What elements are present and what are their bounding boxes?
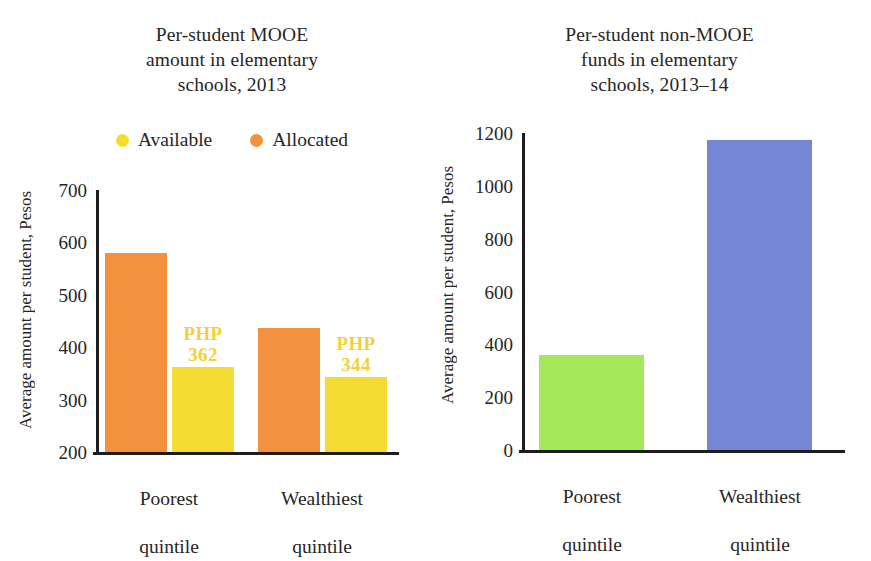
legend-swatch-available-icon xyxy=(116,134,129,147)
legend-item-available[interactable]: Available xyxy=(116,129,212,151)
x-axis-line-left xyxy=(93,452,399,455)
bar-allocated-poorest[interactable] xyxy=(105,253,167,452)
y-axis-line-right xyxy=(522,133,525,450)
y-axis-line-left xyxy=(96,190,99,452)
y-tick-left-200: 200 xyxy=(59,443,88,462)
chart-title-left-line-1: Per-student MOOE xyxy=(24,22,440,47)
legend-swatch-allocated-icon xyxy=(250,134,263,147)
legend-item-allocated[interactable]: Allocated xyxy=(250,129,348,151)
y-axis-title-right: Average amount per student, Pesos xyxy=(438,112,458,457)
y-tick-left-700: 700 xyxy=(59,181,88,200)
bar-value-available-wealthiest-line-2: 344 xyxy=(337,354,376,375)
bar-available-poorest[interactable]: PHP 362 xyxy=(172,367,234,452)
x-tick-label-left-poorest: Poorest quintile xyxy=(139,463,199,561)
chart-title-right-line-1: Per-student non-MOOE xyxy=(448,22,871,47)
chart-title-right: Per-student non-MOOE funds in elementary… xyxy=(430,22,871,97)
bar-nonmooe-wealthiest[interactable] xyxy=(707,140,812,450)
x-tick-label-right-wealthiest: Wealthiest quintile xyxy=(719,461,801,561)
y-tick-right-400: 400 xyxy=(485,335,514,354)
bar-value-available-poorest: PHP 362 xyxy=(184,323,223,365)
chart-title-left-line-2: amount in elementary xyxy=(24,47,440,72)
bar-allocated-wealthiest[interactable] xyxy=(258,328,320,452)
chart-title-left-line-3: schools, 2013 xyxy=(24,72,440,97)
plot-area-left: 700 600 500 400 300 200 PHP 362 PHP 344 xyxy=(96,190,396,452)
y-tick-right-200: 200 xyxy=(485,388,514,407)
legend-label-allocated: Allocated xyxy=(272,129,348,151)
y-tick-left-400: 400 xyxy=(59,338,88,357)
chart-legend-left: Available Allocated xyxy=(0,129,440,151)
y-tick-right-1000: 1000 xyxy=(475,176,513,195)
plot-area-right: 1200 1000 800 600 400 200 0 Poorest quin… xyxy=(522,133,842,450)
bar-value-available-wealthiest-line-1: PHP xyxy=(337,333,376,354)
bar-value-available-poorest-line-2: 362 xyxy=(184,344,223,365)
y-tick-left-500: 500 xyxy=(59,285,88,304)
x-tick-label-right-poorest-line-2: quintile xyxy=(562,533,622,557)
chart-panel-left: Per-student MOOE amount in elementary sc… xyxy=(0,0,440,529)
bar-available-wealthiest[interactable]: PHP 344 xyxy=(325,377,387,453)
chart-title-right-line-2: funds in elementary xyxy=(448,47,871,72)
x-tick-label-left-wealthiest: Wealthiest quintile xyxy=(281,463,363,561)
x-tick-label-right-poorest-line-1: Poorest xyxy=(562,485,622,509)
x-tick-label-left-wealthiest-line-2: quintile xyxy=(281,535,363,559)
y-tick-right-800: 800 xyxy=(485,229,514,248)
x-tick-label-left-poorest-line-2: quintile xyxy=(139,535,199,559)
x-tick-label-left-wealthiest-line-1: Wealthiest xyxy=(281,487,363,511)
x-axis-line-right xyxy=(519,450,845,453)
bar-value-available-wealthiest: PHP 344 xyxy=(337,333,376,375)
x-tick-label-right-wealthiest-line-2: quintile xyxy=(719,533,801,557)
x-tick-label-left-poorest-line-1: Poorest xyxy=(139,487,199,511)
x-tick-label-right-poorest: Poorest quintile xyxy=(562,461,622,561)
y-tick-right-1200: 1200 xyxy=(475,124,513,143)
chart-title-right-line-3: schools, 2013–14 xyxy=(448,72,871,97)
y-axis-title-left: Average amount per student, Pesos xyxy=(16,160,36,460)
y-tick-left-600: 600 xyxy=(59,233,88,252)
bar-value-available-poorest-line-1: PHP xyxy=(184,323,223,344)
y-tick-right-600: 600 xyxy=(485,282,514,301)
bar-nonmooe-poorest[interactable] xyxy=(539,355,644,450)
y-tick-left-300: 300 xyxy=(59,390,88,409)
x-tick-label-right-wealthiest-line-1: Wealthiest xyxy=(719,485,801,509)
chart-panel-right: Per-student non-MOOE funds in elementary… xyxy=(430,0,871,529)
y-tick-right-0: 0 xyxy=(504,441,514,460)
legend-label-available: Available xyxy=(138,129,212,151)
chart-title-left: Per-student MOOE amount in elementary sc… xyxy=(0,22,440,97)
